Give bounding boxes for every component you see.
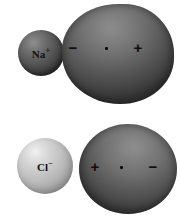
chloride-cloud-positive-sign: + <box>88 159 102 174</box>
chloride-cloud-nucleus-dot-icon <box>120 166 123 169</box>
sodium-row: Na+ − + <box>0 0 180 110</box>
sodium-cloud-nucleus-dot-icon <box>105 47 108 50</box>
chloride-ion-label: Cl− <box>17 162 73 173</box>
sodium-ion-symbol: Na <box>32 48 46 60</box>
sodium-ion-label: Na+ <box>18 49 64 60</box>
sodium-cloud-positive-sign: + <box>131 40 145 55</box>
sodium-ion-sphere: Na+ <box>18 30 64 76</box>
chloride-ion-symbol: Cl <box>37 161 48 173</box>
chloride-cloud-negative-sign: − <box>146 159 160 174</box>
chloride-row: Cl− + − <box>0 110 180 219</box>
chloride-ion-charge: − <box>48 159 53 168</box>
chloride-ion-sphere: Cl− <box>17 138 73 194</box>
sodium-cloud-negative-sign: − <box>66 40 80 55</box>
ion-polarization-figure: Na+ − + Cl− + − <box>0 0 180 219</box>
sodium-ion-charge: + <box>46 46 51 55</box>
